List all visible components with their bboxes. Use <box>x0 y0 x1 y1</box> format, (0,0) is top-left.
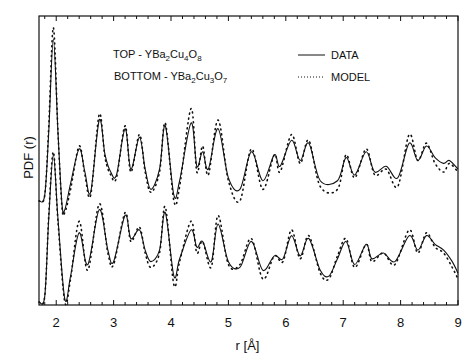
legend <box>298 55 325 77</box>
x-tick-label: 5 <box>225 315 232 330</box>
x-axis-label: r [Å] <box>0 338 475 353</box>
annotation-part: O <box>189 48 198 60</box>
x-tick-label: 3 <box>110 315 117 330</box>
annotation-bottom-text: BOTTOM - YBa <box>114 70 191 82</box>
x-tick-label: 4 <box>167 315 174 330</box>
annotation-part: Cu <box>196 70 210 82</box>
x-tick-label: 8 <box>397 315 404 330</box>
annotation-part: O <box>214 70 223 82</box>
annotation-top: TOP - YBa2Cu4O8 <box>113 48 202 63</box>
x-tick-label: 6 <box>282 315 289 330</box>
legend-data-label: DATA <box>331 49 359 61</box>
pdf-chart <box>0 0 475 364</box>
data-curve <box>39 155 458 304</box>
annotation-bottom: BOTTOM - YBa2Cu3O7 <box>114 70 227 85</box>
data-curves <box>39 28 458 305</box>
model-curve <box>39 152 458 305</box>
annotation-top-text: TOP - YBa <box>113 48 166 60</box>
x-tick-label: 7 <box>340 315 347 330</box>
subscript: 8 <box>197 54 201 63</box>
y-axis-label: PDF (r) <box>21 128 36 188</box>
legend-model-label: MODEL <box>331 71 370 83</box>
annotation-part: Cu <box>170 48 184 60</box>
subscript: 7 <box>223 76 227 85</box>
x-tick-label: 9 <box>454 315 461 330</box>
model-curve <box>39 28 458 216</box>
x-tick-label: 2 <box>53 315 60 330</box>
